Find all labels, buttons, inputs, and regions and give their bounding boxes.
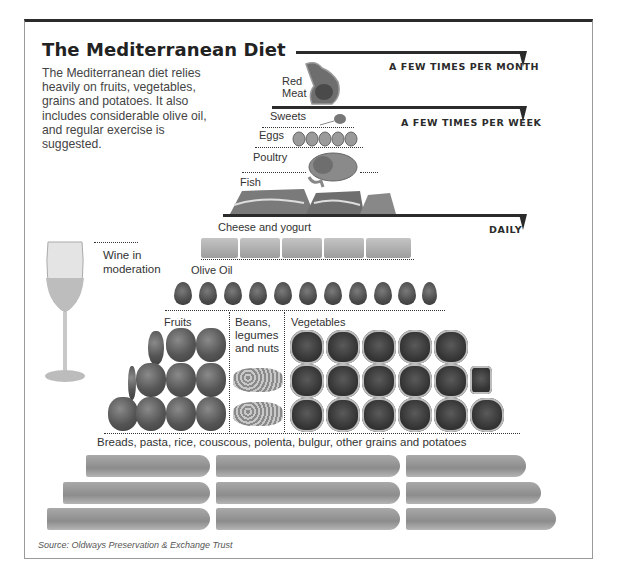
vegetable	[326, 398, 360, 432]
bread-loaf	[216, 508, 400, 530]
sweets-image	[318, 113, 348, 127]
beans-label-line3: and nuts	[235, 342, 279, 355]
vegetable	[326, 364, 360, 398]
poultry-label: Poultry	[253, 151, 287, 163]
beans-vegetables-divider	[284, 312, 285, 432]
apple	[166, 363, 196, 397]
vegetable	[470, 398, 504, 432]
olive	[299, 282, 317, 305]
vegetable	[398, 364, 432, 398]
bread-loaf	[86, 455, 210, 477]
apple	[196, 328, 226, 362]
wine-label-line1: Wine in	[103, 248, 161, 262]
poultry-image	[303, 149, 363, 189]
vegetable	[470, 366, 492, 394]
apple	[166, 328, 196, 362]
bread-loaf	[216, 455, 400, 477]
beans-label-line2: legumes	[235, 329, 279, 342]
beans-label-line1: Beans,	[235, 316, 279, 329]
apple	[166, 397, 196, 431]
vegetable	[362, 364, 396, 398]
bread-loaf	[406, 455, 526, 477]
cheese-block	[201, 238, 238, 258]
eggs-image	[292, 131, 362, 147]
bread-loaf	[63, 482, 210, 504]
cheese-block	[395, 238, 411, 258]
olive-divider	[165, 310, 445, 311]
beans-pile	[233, 402, 283, 426]
cheese-label: Cheese and yogurt	[218, 221, 311, 233]
cheese-block	[240, 238, 280, 258]
olive	[174, 282, 192, 305]
bread-loaf	[406, 508, 556, 530]
olive-oil-label: Olive Oil	[191, 264, 233, 276]
sweets-divider	[262, 127, 354, 128]
apple	[136, 363, 166, 397]
grains-label: Breads, pasta, rice, couscous, polenta, …	[97, 436, 467, 448]
wine-glass-image	[40, 240, 90, 385]
week-rule	[272, 106, 523, 109]
red-meat-image	[302, 60, 344, 106]
beans-pile	[233, 368, 283, 392]
vegetable	[362, 398, 396, 432]
vegetables-label: Vegetables	[291, 316, 345, 328]
vegetable	[434, 330, 468, 364]
wine-divider	[94, 242, 138, 243]
source-citation: Source: Oldways Preservation & Exchange …	[38, 540, 232, 550]
frequency-week-label: A FEW TIMES PER WEEK	[401, 117, 541, 128]
olive	[324, 282, 342, 305]
apple	[196, 363, 226, 397]
apple	[128, 366, 136, 400]
frequency-daily-label: DAILY	[489, 224, 522, 235]
cheese-block	[282, 238, 322, 258]
daily-rule	[223, 214, 523, 217]
description: The Mediterranean diet relies heavily on…	[42, 66, 222, 151]
produce-divider	[104, 433, 520, 434]
apple	[148, 331, 164, 365]
vegetable	[290, 330, 324, 364]
wine-label: Wine in moderation	[103, 248, 161, 276]
vegetable	[434, 364, 468, 398]
cheese-divider	[201, 259, 414, 260]
olive	[398, 282, 416, 305]
vegetable	[290, 364, 324, 398]
apple	[108, 397, 138, 431]
olive	[349, 282, 367, 305]
vegetable	[398, 398, 432, 432]
vegetable	[326, 330, 360, 364]
apple	[136, 397, 166, 431]
olive	[199, 282, 217, 305]
olive	[224, 282, 242, 305]
cheese-block	[324, 238, 364, 258]
vegetable	[362, 330, 396, 364]
cheese-spacer	[355, 238, 356, 258]
eggs-divider	[255, 147, 363, 148]
frequency-month-label: A FEW TIMES PER MONTH	[389, 61, 539, 72]
vegetable	[434, 398, 468, 432]
olive	[249, 282, 267, 305]
beans-label: Beans, legumes and nuts	[235, 316, 279, 355]
page-title: The Mediterranean Diet	[42, 39, 286, 60]
bread-loaf	[406, 482, 541, 504]
olive	[422, 282, 437, 305]
eggs-label: Eggs	[259, 129, 284, 141]
month-rule	[296, 51, 523, 54]
bread-loaf	[47, 508, 210, 530]
vegetable	[398, 330, 432, 364]
olive	[374, 282, 392, 305]
vegetable	[290, 398, 324, 432]
wine-label-line2: moderation	[103, 262, 161, 276]
olive	[274, 282, 292, 305]
apple	[196, 397, 226, 431]
poultry-divider-right	[360, 172, 378, 173]
sweets-label: Sweets	[270, 110, 306, 122]
fruits-beans-divider	[229, 312, 230, 432]
fruits-label: Fruits	[164, 316, 192, 328]
bread-loaf	[216, 482, 400, 504]
fish-image	[224, 187, 396, 214]
poultry-divider-left	[242, 172, 306, 173]
